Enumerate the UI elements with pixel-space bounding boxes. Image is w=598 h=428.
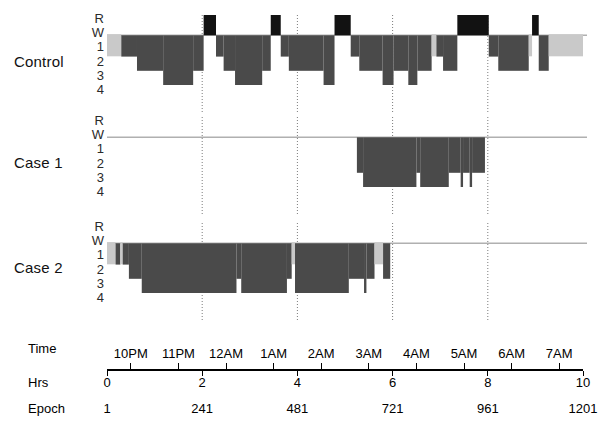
- stage-block-wake: [107, 34, 121, 56]
- time-label-4AM: 4AM: [403, 346, 430, 361]
- stage-block-2: [137, 35, 163, 71]
- stage-tick-2: 2: [97, 265, 104, 275]
- time-tick-12AM: [226, 363, 227, 369]
- stage-block-2: [383, 243, 390, 278]
- axis-row-label-epoch: Epoch: [28, 401, 65, 416]
- stage-block-wake: [292, 242, 295, 264]
- axis-row-label-hrs: Hrs: [28, 375, 48, 390]
- stage-block-r: [335, 15, 351, 35]
- time-tick-4AM: [416, 363, 417, 369]
- hour-label-0: 0: [103, 375, 110, 390]
- hour-label-6: 6: [389, 375, 396, 390]
- stage-tick-1: 1: [97, 42, 104, 52]
- stage-tick-3: 3: [97, 173, 104, 183]
- stage-block-1: [216, 35, 224, 56]
- stage-block-2: [349, 243, 364, 278]
- stage-tick-4: 4: [97, 187, 104, 197]
- stage-block-3: [235, 35, 262, 85]
- stage-block-1: [351, 35, 360, 56]
- stage-block-r: [271, 15, 281, 35]
- time-label-5AM: 5AM: [451, 346, 478, 361]
- stage-tick-1: 1: [97, 250, 104, 260]
- epoch-label-1201: 1201: [569, 401, 598, 416]
- time-label-3AM: 3AM: [355, 346, 382, 361]
- stage-block-2: [539, 35, 549, 71]
- stage-block-3: [241, 243, 287, 293]
- stage-block-1: [123, 243, 129, 264]
- time-label-11PM: 11PM: [162, 346, 195, 361]
- stage-tick-4: 4: [97, 293, 104, 303]
- epoch-label-961: 961: [477, 401, 499, 416]
- stage-block-2: [129, 243, 142, 278]
- stage-block-2: [443, 35, 457, 71]
- stage-block-3: [470, 137, 472, 187]
- stage-block-2: [463, 137, 470, 173]
- hour-label-4: 4: [294, 375, 301, 390]
- time-label-7AM: 7AM: [546, 346, 573, 361]
- subject-label-case-1: Case 1: [14, 154, 63, 171]
- stage-block-3: [163, 35, 193, 85]
- stage-block-2: [289, 35, 324, 71]
- stage-block-3: [408, 35, 417, 85]
- stage-block-1: [281, 35, 289, 56]
- stage-block-wake: [107, 242, 116, 264]
- time-tick-2AM: [321, 363, 322, 369]
- stage-block-3: [461, 137, 463, 187]
- stage-block-2: [262, 35, 271, 71]
- stage-tick-2: 2: [97, 57, 104, 67]
- stage-block-1: [116, 243, 121, 264]
- stage-block-2: [394, 35, 409, 71]
- stage-block-3: [142, 243, 237, 293]
- stage-axis-1: RW1234: [88, 116, 104, 208]
- stage-block-r: [457, 15, 488, 35]
- time-tick-3AM: [368, 363, 369, 369]
- hypnogram-panel-case-2: [107, 222, 598, 322]
- stage-block-wake: [375, 242, 384, 264]
- stage-block-wake: [120, 242, 122, 264]
- stage-block-2: [498, 35, 528, 71]
- time-tick-7AM: [559, 363, 560, 369]
- stage-tick-2: 2: [97, 159, 104, 169]
- epoch-label-1: 1: [103, 401, 110, 416]
- axis-row-label-time: Time: [28, 341, 56, 356]
- stage-block-wake: [549, 34, 583, 56]
- hypnogram-figure: ControlRW1234Case 1RW1234Case 2RW1234Tim…: [0, 0, 598, 428]
- stage-axis-2: RW1234: [88, 222, 104, 314]
- stage-tick-R: R: [95, 222, 104, 232]
- stage-block-3: [295, 243, 349, 293]
- time-label-12AM: 12AM: [209, 346, 243, 361]
- stage-tick-3: 3: [97, 71, 104, 81]
- hour-label-10: 10: [576, 375, 590, 390]
- stage-block-3: [383, 35, 394, 85]
- stage-tick-W: W: [92, 130, 104, 140]
- subject-label-control: Control: [14, 53, 64, 70]
- time-label-1AM: 1AM: [260, 346, 287, 361]
- time-tick-5AM: [464, 363, 465, 369]
- stage-block-2: [359, 35, 382, 71]
- time-axis-line: [107, 369, 583, 371]
- hypnogram-panel-control: [107, 14, 598, 114]
- stage-block-1: [121, 35, 137, 56]
- stage-block-2: [224, 35, 235, 71]
- stage-block-2: [357, 137, 363, 173]
- stage-tick-3: 3: [97, 279, 104, 289]
- stage-tick-R: R: [95, 116, 104, 126]
- stage-tick-4: 4: [97, 85, 104, 95]
- stage-block-1: [489, 35, 499, 56]
- time-tick-10PM: [130, 363, 131, 369]
- stage-block-wake: [529, 34, 532, 56]
- stage-block-2: [236, 243, 241, 278]
- stage-block-r: [532, 15, 539, 35]
- stage-block-2: [417, 35, 431, 71]
- time-label-2AM: 2AM: [308, 346, 335, 361]
- time-tick-6AM: [511, 363, 512, 369]
- hour-label-8: 8: [484, 375, 491, 390]
- time-tick-11PM: [178, 363, 179, 369]
- time-label-10PM: 10PM: [114, 346, 148, 361]
- epoch-label-241: 241: [191, 401, 213, 416]
- hypnogram-panel-case-1: [107, 116, 598, 216]
- stage-block-1: [436, 35, 443, 56]
- time-label-6AM: 6AM: [498, 346, 525, 361]
- stage-block-3: [364, 243, 366, 293]
- epoch-label-721: 721: [382, 401, 404, 416]
